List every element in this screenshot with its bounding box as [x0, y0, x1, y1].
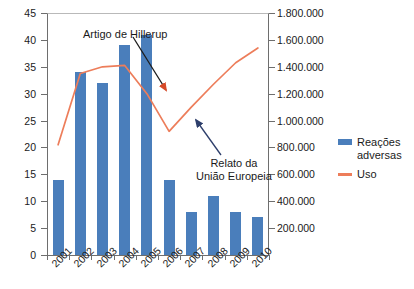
left-axis-tick-label: 25 — [10, 116, 36, 126]
bar — [75, 72, 86, 255]
right-axis-tick — [269, 94, 275, 95]
right-axis-tick-label: 1.800.000 — [277, 8, 324, 18]
bar — [53, 180, 64, 255]
left-axis-tick-label: 20 — [10, 142, 36, 152]
right-axis-tick — [269, 67, 275, 68]
right-axis-tick-label: 1.600.000 — [277, 35, 324, 45]
right-axis-tick-label: 1.000.000 — [277, 116, 324, 126]
annotation-eu-report-line2: União Europeia — [196, 170, 272, 183]
right-axis-tick-label: 600.000 — [277, 169, 315, 179]
legend-bar-swatch-icon — [338, 139, 352, 145]
legend-item-uso: Uso — [338, 168, 402, 181]
left-axis-tick-label: 35 — [10, 62, 36, 72]
right-axis-tick — [269, 201, 275, 202]
chart-legend: Reações adversas Uso — [338, 136, 402, 188]
legend-label-reacoes-adversas: Reações adversas — [357, 136, 402, 161]
left-axis-tick-label: 10 — [10, 196, 36, 206]
bar-series-reacoes-adversas — [47, 13, 269, 255]
left-axis-tick-label: 45 — [10, 8, 36, 18]
chart-container: 051015202530354045 200.000400.000600.000… — [0, 0, 414, 289]
legend-line-swatch-icon — [338, 173, 352, 176]
left-axis-tick-label: 0 — [10, 250, 36, 260]
right-axis-tick-label: 200.000 — [277, 223, 315, 233]
x-axis-tick — [47, 255, 48, 260]
right-axis-tick-label: 800.000 — [277, 142, 315, 152]
bar — [141, 35, 152, 255]
annotation-hillerup: Artigo de Hillerup — [83, 28, 167, 41]
left-axis-tick-label: 15 — [10, 169, 36, 179]
bar — [97, 83, 108, 255]
right-axis-tick — [269, 40, 275, 41]
left-axis-tick-label: 30 — [10, 89, 36, 99]
right-axis-tick — [269, 13, 275, 14]
left-axis-tick-label: 40 — [10, 35, 36, 45]
right-axis-tick-label: 1.200.000 — [277, 89, 324, 99]
right-axis-tick-label: 400.000 — [277, 196, 315, 206]
legend-label-uso: Uso — [357, 168, 377, 181]
left-axis-tick-label: 5 — [10, 223, 36, 233]
right-axis-tick-label: 1.400.000 — [277, 62, 324, 72]
bar — [208, 196, 219, 255]
annotation-eu-report-line1: Relato da — [196, 157, 272, 170]
legend-item-reacoes-adversas: Reações adversas — [338, 136, 402, 161]
bar — [119, 45, 130, 255]
right-axis-tick — [269, 121, 275, 122]
right-axis-tick — [269, 228, 275, 229]
bar — [164, 180, 175, 255]
right-axis-tick — [269, 147, 275, 148]
annotation-eu-report: Relato da União Europeia — [196, 157, 272, 182]
